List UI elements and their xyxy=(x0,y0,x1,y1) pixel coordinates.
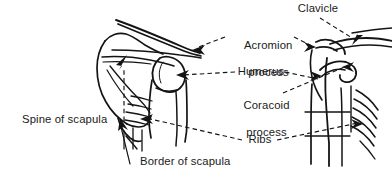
label-border-of-scapula: Border of scapula xyxy=(140,155,260,168)
clavicle-right-view xyxy=(330,28,392,50)
anatomy-figure: Clavicle Acromion process Humerus Coraco… xyxy=(0,0,392,182)
left-view-group xyxy=(97,20,205,151)
right-view-group xyxy=(304,28,392,166)
label-acromion-process: Acromion process xyxy=(226,26,298,93)
leader-clavicle xyxy=(320,18,357,41)
label-humerus: Humerus xyxy=(236,65,286,78)
leader-acromion-left xyxy=(196,37,225,48)
label-acromion-line-1: Acromion xyxy=(244,39,293,51)
label-coracoid-line-1: Coracoid xyxy=(243,99,289,111)
humerus-left-view xyxy=(149,57,187,147)
label-spine-of-scapula: Spine of scapula xyxy=(22,113,122,126)
label-clavicle: Clavicle xyxy=(283,2,353,15)
arrowhead-acromion-right xyxy=(304,42,316,52)
clavicle-left-view xyxy=(112,20,201,58)
label-ribs: Ribs xyxy=(245,133,275,146)
